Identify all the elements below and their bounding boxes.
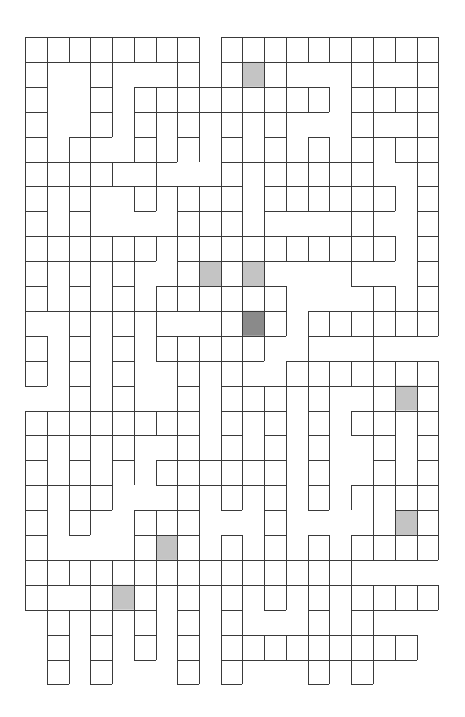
marked-cell-light[interactable] xyxy=(112,585,134,610)
marked-cell-light[interactable] xyxy=(242,261,264,286)
marked-cell-light[interactable] xyxy=(242,62,264,87)
marked-cell-dark[interactable] xyxy=(242,311,264,336)
marked-cell-light[interactable] xyxy=(395,386,417,411)
maze-grid xyxy=(0,0,465,717)
marked-cell-light[interactable] xyxy=(156,535,177,560)
marked-cell-light[interactable] xyxy=(395,510,417,535)
marked-cell-light[interactable] xyxy=(199,261,221,286)
walls-layer xyxy=(25,37,439,685)
